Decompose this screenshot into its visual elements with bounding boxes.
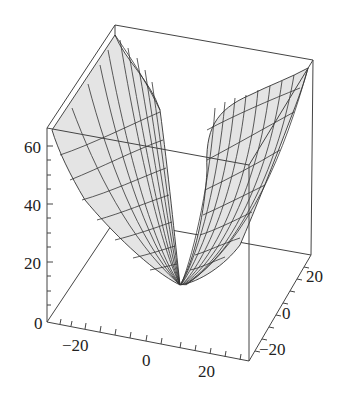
z-tick-label-60: 60 [24,139,41,156]
z-axis-ticks [47,146,53,305]
y-tick-label-20: 20 [306,268,323,285]
surface-left [52,35,180,285]
y-tick-label-0: 0 [282,305,291,322]
x-tick-label-20: 20 [198,363,215,380]
x-tick-label-neg20: −20 [62,337,89,354]
z-tick-label-0: 0 [34,315,43,332]
x-tick-label-0: 0 [142,352,151,369]
y-tick-label-neg20: −20 [259,341,286,358]
z-tick-label-40: 40 [24,197,41,214]
plot-canvas [0,0,339,399]
z-tick-label-20: 20 [24,255,41,272]
surface-plot: 60 40 20 0 −20 0 20 20 0 −20 [0,0,339,399]
